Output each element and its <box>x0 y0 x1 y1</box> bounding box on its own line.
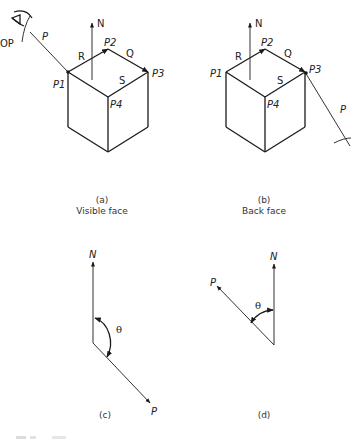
edge-s-label: S <box>119 75 125 86</box>
p2-label: P2 <box>104 37 116 48</box>
view-vector-label: P <box>340 104 347 115</box>
edge-q-label: Q <box>126 48 134 59</box>
faint-caption-fragment <box>30 436 36 439</box>
p1-label: P1 <box>210 68 222 79</box>
angle-arc <box>251 310 273 323</box>
eye-icon <box>334 138 351 143</box>
p3-label: P3 <box>309 64 321 75</box>
normal-label: N <box>89 249 97 260</box>
p4-label: P4 <box>110 99 122 110</box>
view-vector-line <box>30 32 68 72</box>
normal-label: N <box>97 18 104 29</box>
viewpoint-label: OP <box>0 38 14 49</box>
panel-a-tag: (a) <box>96 195 109 205</box>
view-vector-label: P <box>210 277 217 288</box>
p3-dot <box>304 71 308 75</box>
figure-canvas: OP P N R Q S P1 P2 P3 P4 (a) Visible fac… <box>0 0 351 441</box>
panel-b-caption: Back face <box>242 206 286 216</box>
panel-c-tag: (c) <box>99 410 111 420</box>
theta-label: θ <box>116 324 122 335</box>
edge-s-label: S <box>277 75 283 86</box>
p4-label: P4 <box>267 99 279 110</box>
normal-label: N <box>270 251 278 262</box>
panel-a-caption: Visible face <box>76 206 128 216</box>
view-vector <box>217 286 274 345</box>
cube-b <box>226 49 305 152</box>
panel-d-tag: (d) <box>258 410 271 420</box>
panel-b-tag: (b) <box>258 195 271 205</box>
edge-r-label: R <box>78 51 85 62</box>
p1-label: P1 <box>53 79 65 90</box>
edge-r-label: R <box>235 51 242 62</box>
panel-d-acute-angle: N P θ (d) <box>210 251 278 420</box>
panel-c-obtuse-angle: N P θ (c) <box>89 249 158 420</box>
normal-label: N <box>255 18 262 29</box>
view-vector-label: P <box>42 31 49 42</box>
angle-arc <box>95 318 111 357</box>
faint-caption-fragment <box>52 436 66 439</box>
p2-label: P2 <box>261 37 273 48</box>
cube-a <box>68 49 148 152</box>
eye-icon <box>12 11 32 42</box>
panel-a-visible-face: OP P N R Q S P1 P2 P3 P4 (a) Visible fac… <box>0 11 164 216</box>
view-vector-label: P <box>151 406 158 417</box>
theta-label: θ <box>255 300 261 311</box>
faint-caption-fragment <box>16 436 26 439</box>
view-vector <box>93 343 150 403</box>
edge-q-label: Q <box>284 48 292 59</box>
panel-b-back-face: N P R Q S P1 P2 P3 P4 (b) Back face <box>210 18 351 216</box>
p3-label: P3 <box>152 68 164 79</box>
